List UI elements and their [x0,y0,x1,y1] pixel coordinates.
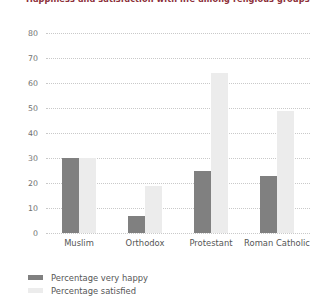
y-axis-tick-70: 70 [0,54,38,63]
bar [128,216,145,234]
bar [260,176,277,234]
y-axis-tick-50: 50 [0,104,38,113]
legend-item[interactable]: Percentage satisfied [28,284,148,297]
bar [277,111,294,234]
x-axis-label-roman-catholic: Roman Catholic [244,238,310,248]
legend-item[interactable]: Percentage very happy [28,271,148,284]
x-axis-label-orthodox: Orthodox [126,238,165,248]
y-axis-tick-60: 60 [0,79,38,88]
y-axis-tick-0: 0 [0,229,38,238]
bar [145,186,162,234]
x-axis-label-protestant: Protestant [189,238,232,248]
bar [62,158,79,233]
bar-groups [46,33,310,233]
legend-label: Percentage very happy [51,273,148,283]
bar-group [46,33,112,233]
bar [194,171,211,234]
gridline [46,233,310,234]
y-axis-tick-80: 80 [0,29,38,38]
chart-legend: Percentage very happyPercentage satisfie… [28,271,148,297]
y-axis-tick-labels: 01020304050607080 [0,33,38,233]
legend-swatch-icon [28,275,43,280]
y-axis-tick-30: 30 [0,154,38,163]
y-axis-tick-40: 40 [0,129,38,138]
y-axis-tick-20: 20 [0,179,38,188]
legend-label: Percentage satisfied [51,286,136,296]
bar [211,73,228,233]
bar-group [112,33,178,233]
bar [79,158,96,233]
y-axis-tick-10: 10 [0,204,38,213]
x-axis-label-muslim: Muslim [64,238,94,248]
bar-group [244,33,310,233]
chart-title: Happiness and satisfaction with life amo… [26,0,316,4]
legend-swatch-icon [28,288,43,293]
x-axis-category-labels: MuslimOrthodoxProtestantRoman Catholic [46,238,310,252]
chart-container: Happiness and satisfaction with life amo… [0,0,321,302]
bar-group [178,33,244,233]
